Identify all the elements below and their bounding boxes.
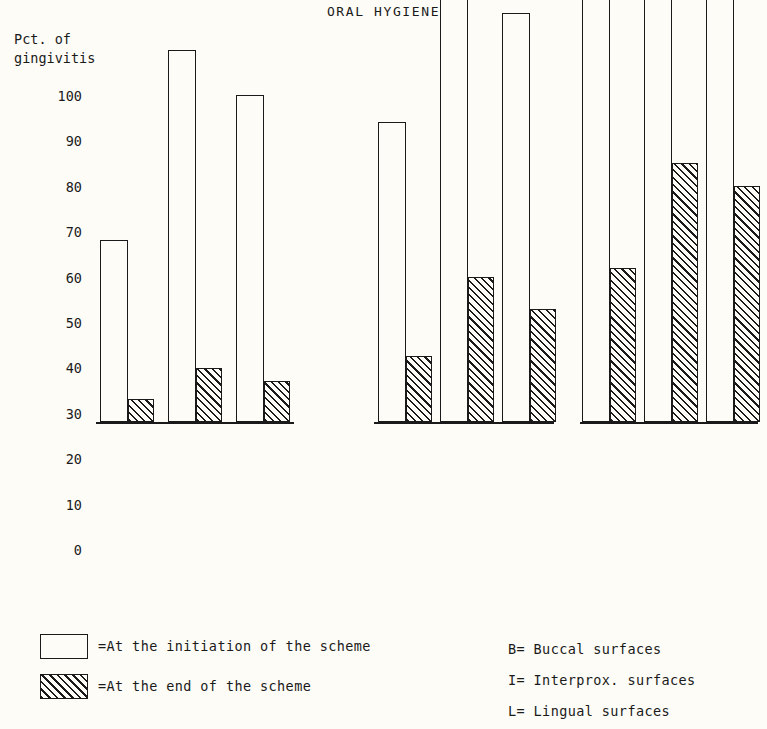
y-axis-tick-label: 70 — [12, 226, 82, 240]
bar-initiation — [582, 0, 610, 422]
bar-initiation — [440, 0, 468, 422]
bar-end — [264, 381, 290, 422]
legend-item: =At the end of the scheme — [40, 666, 371, 706]
y-axis-ticks: 1009080706050403020100 — [0, 0, 82, 600]
bar-end — [734, 186, 760, 422]
legend-item-label: =At the initiation of the scheme — [98, 638, 371, 654]
y-axis-tick-label: 10 — [12, 499, 82, 513]
y-axis-tick-label: 80 — [12, 181, 82, 195]
bar-end — [530, 309, 556, 423]
y-axis-tick-label: 90 — [12, 136, 82, 150]
bar-end — [406, 356, 432, 422]
category-legend-item: I= Interprox. surfaces — [508, 665, 696, 696]
y-axis-tick-label: 60 — [12, 272, 82, 286]
group-baseline — [580, 422, 758, 424]
bar-initiation — [706, 0, 734, 422]
series-legend: =At the initiation of the scheme=At the … — [40, 626, 371, 706]
bar-end — [672, 163, 698, 422]
plot-area: 1009080706050403020100 GoodBILFairly goo… — [0, 0, 767, 600]
legend-item: =At the initiation of the scheme — [40, 626, 371, 666]
category-legend: B= Buccal surfacesI= Interprox. surfaces… — [508, 634, 696, 727]
y-axis-tick-label: 100 — [12, 90, 82, 104]
y-axis-tick-label: 0 — [12, 544, 82, 558]
group-baseline — [96, 422, 294, 424]
bar-pair: B — [100, 0, 154, 422]
category-legend-item: L= Lingual surfaces — [508, 696, 696, 727]
bar-initiation — [100, 240, 128, 422]
bar-initiation — [644, 0, 672, 422]
bar-end — [128, 399, 154, 422]
bar-pair: B — [378, 0, 432, 422]
bar-end — [468, 277, 494, 422]
bar-pair: I — [440, 0, 494, 422]
y-axis-tick-label: 50 — [12, 317, 82, 331]
bar-pair: B — [582, 0, 636, 422]
group-baseline — [374, 422, 554, 424]
bar-pair: L — [236, 0, 290, 422]
bar-initiation — [168, 50, 196, 422]
bar-initiation — [236, 95, 264, 422]
bar-initiation — [502, 13, 530, 422]
bar-initiation — [378, 122, 406, 422]
y-axis-tick-label: 30 — [12, 408, 82, 422]
bar-pair: I — [644, 0, 698, 422]
bar-end — [196, 368, 222, 422]
bar-pair: L — [706, 0, 760, 422]
legend-swatch-open-icon — [40, 634, 88, 659]
bar-pair: L — [502, 0, 556, 422]
bar-pair: I — [168, 0, 222, 422]
legend-swatch-hatched-icon — [40, 674, 88, 699]
y-axis-tick-label: 40 — [12, 363, 82, 377]
legend-item-label: =At the end of the scheme — [98, 678, 311, 694]
category-legend-item: B= Buccal surfaces — [508, 634, 696, 665]
bar-end — [610, 268, 636, 422]
y-axis-tick-label: 20 — [12, 453, 82, 467]
